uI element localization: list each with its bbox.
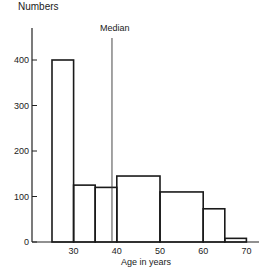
histogram-bar <box>117 176 160 242</box>
median-label: Median <box>100 23 130 33</box>
x-tick-label: 30 <box>69 246 79 256</box>
y-tick-label: 0 <box>24 237 29 247</box>
histogram-bar <box>52 60 74 242</box>
y-tick-label: 300 <box>14 101 29 111</box>
histogram-bar <box>95 187 117 242</box>
y-tick-label: 200 <box>14 146 29 156</box>
x-tick-label: 50 <box>155 246 165 256</box>
histogram-chart: 01002003004003040506070 <box>0 0 274 274</box>
histogram-bar <box>203 209 225 242</box>
x-tick-label: 70 <box>241 246 251 256</box>
x-tick-label: 40 <box>112 246 122 256</box>
x-tick-label: 60 <box>198 246 208 256</box>
histogram-bar <box>160 192 203 242</box>
histogram-bar <box>74 185 96 242</box>
y-tick-label: 100 <box>14 192 29 202</box>
histogram-bar <box>225 238 247 242</box>
y-tick-label: 400 <box>14 55 29 65</box>
x-axis-label: Age in years <box>121 257 171 267</box>
y-axis-label: Numbers <box>18 1 59 12</box>
